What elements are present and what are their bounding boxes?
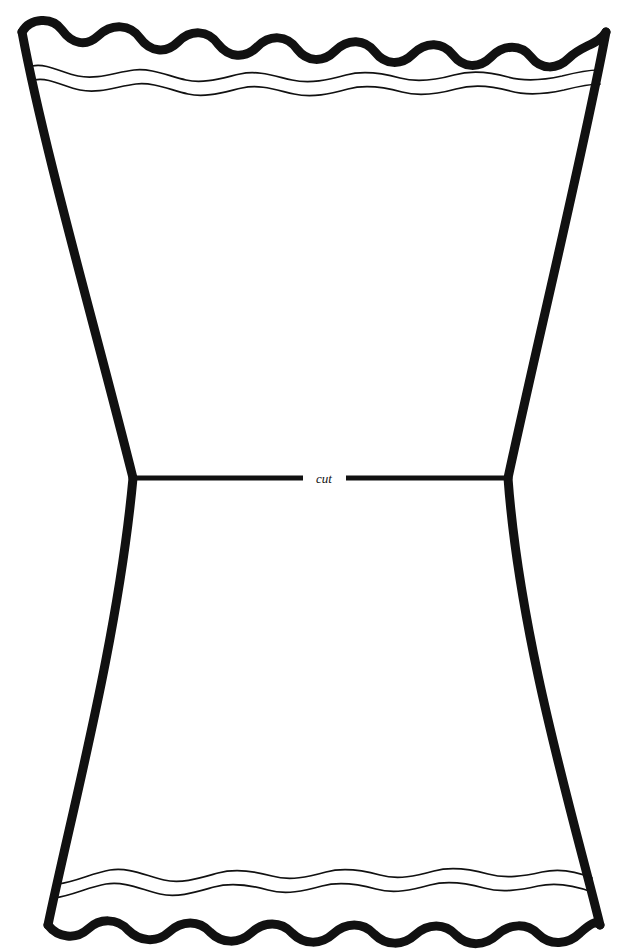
pattern-canvas: cut — [0, 0, 644, 949]
cut-label: cut — [316, 471, 332, 486]
pattern-drawing: cut — [0, 0, 644, 949]
